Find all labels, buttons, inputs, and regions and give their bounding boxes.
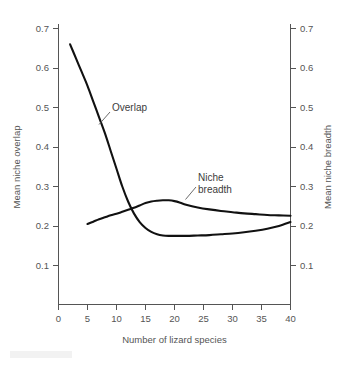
right-tick-label-0.4: 0.4 [300,141,313,152]
left-tick-label-0.1: 0.1 [36,260,49,271]
left-axis-title: Mean niche overlap [11,126,22,209]
x-tick-label-25: 25 [198,313,209,324]
niche-breadth-label-line1: Niche [198,172,224,183]
overlap-label: Overlap [112,102,147,113]
chart-figure: 0.7 0.6 0.5 0.4 0.3 0.2 0.1 Mean niche o… [0,0,343,365]
x-tick-label-5: 5 [85,313,90,324]
x-tick-label-10: 10 [111,313,122,324]
x-tick-label-20: 20 [169,313,180,324]
right-tick-label-0.6: 0.6 [300,62,313,73]
right-tick-label-0.2: 0.2 [300,220,313,231]
lizard-niche-chart: 0.7 0.6 0.5 0.4 0.3 0.2 0.1 Mean niche o… [0,0,343,365]
right-axis-title: Mean niche breadth [322,125,333,209]
x-tick-label-40: 40 [285,313,296,324]
left-tick-label-0.5: 0.5 [36,102,49,113]
chart-background [0,0,343,365]
left-tick-label-0.4: 0.4 [36,141,49,152]
left-tick-label-0.6: 0.6 [36,62,49,73]
right-tick-label-0.7: 0.7 [300,23,313,34]
right-tick-label-0.3: 0.3 [300,181,313,192]
x-axis-title: Number of lizard species [122,334,227,345]
x-tick-label-35: 35 [256,313,267,324]
right-tick-label-0.1: 0.1 [300,260,313,271]
x-tick-label-15: 15 [140,313,151,324]
page-artifact [10,351,72,358]
left-tick-label-0.2: 0.2 [36,220,49,231]
x-tick-label-30: 30 [227,313,238,324]
x-tick-label-0: 0 [56,313,61,324]
left-tick-label-0.7: 0.7 [36,23,49,34]
right-tick-label-0.5: 0.5 [300,102,313,113]
niche-breadth-label-line2: breadth [198,184,232,195]
left-tick-label-0.3: 0.3 [36,181,49,192]
